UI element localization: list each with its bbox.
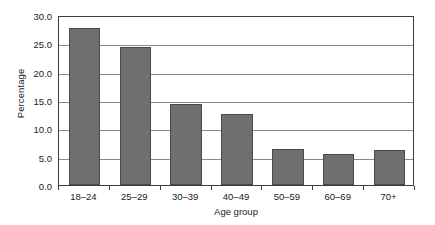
bar	[120, 47, 152, 185]
y-axis-tick-label: 0.0	[39, 181, 52, 192]
x-axis-tick-mark	[211, 186, 212, 190]
y-axis-tick-label: 5.0	[39, 152, 52, 163]
x-axis-tick-mark	[109, 186, 110, 190]
y-axis-tick-label: 20.0	[34, 67, 53, 78]
x-axis-tick-mark	[261, 186, 262, 190]
x-axis-tick-label: 70+	[381, 191, 397, 202]
x-axis-tick-label: 40–49	[223, 191, 249, 202]
bar	[170, 104, 202, 185]
y-axis-tick-label: 15.0	[34, 96, 53, 107]
x-axis-tick-mark	[414, 186, 415, 190]
y-axis-tick-label: 10.0	[34, 124, 53, 135]
x-axis-tick-mark	[312, 186, 313, 190]
y-axis-tick-label: 25.0	[34, 39, 53, 50]
plot-area	[58, 16, 414, 186]
bar	[323, 154, 355, 185]
bar-chart-figure: Percentage 0.05.010.015.020.025.030.0 18…	[0, 0, 435, 225]
x-axis-tick-mark	[160, 186, 161, 190]
bar	[374, 150, 406, 185]
x-axis-tick-mark	[58, 186, 59, 190]
bar	[221, 114, 253, 185]
bar	[272, 149, 304, 185]
x-axis-tick-label: 30–39	[172, 191, 198, 202]
bar	[69, 28, 101, 185]
x-axis-tick-label: 50–59	[274, 191, 300, 202]
x-axis-tick-label: 60–69	[324, 191, 350, 202]
x-axis-tick-label: 18–24	[70, 191, 96, 202]
x-axis-tick-mark	[363, 186, 364, 190]
x-axis-title: Age group	[58, 206, 414, 217]
x-axis-tick-label: 25–29	[121, 191, 147, 202]
y-axis-tick-label: 30.0	[34, 11, 53, 22]
bar-series	[59, 17, 413, 185]
y-axis-tick-labels: 0.05.010.015.020.025.030.0	[0, 0, 58, 225]
